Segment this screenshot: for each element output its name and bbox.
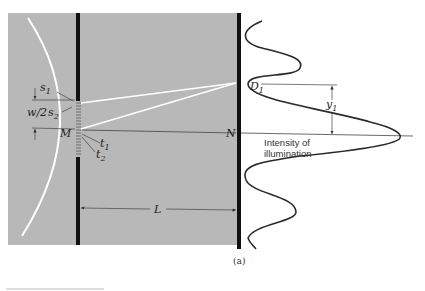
screen-barrier bbox=[237, 13, 241, 249]
label-N: N bbox=[225, 127, 236, 140]
intensity-label-line1: Intensity of bbox=[264, 137, 310, 148]
svg-text:D1: D1 bbox=[249, 80, 264, 95]
diffraction-diagram: s1 w/2 s2 M t1 t2 L N D1 y1 Intensity of… bbox=[0, 0, 425, 291]
central-axis-right bbox=[241, 133, 413, 136]
svg-text:y1: y1 bbox=[325, 98, 337, 113]
slit-barrier-lower bbox=[76, 157, 80, 245]
slit-barrier-upper bbox=[76, 13, 80, 101]
label-L: L bbox=[153, 203, 161, 216]
background-panel bbox=[8, 13, 239, 245]
label-M: M bbox=[59, 127, 72, 140]
label-w2: w/2 bbox=[27, 106, 47, 119]
figure-caption: (a) bbox=[233, 256, 245, 266]
intensity-label-line2: illumination bbox=[264, 148, 312, 159]
